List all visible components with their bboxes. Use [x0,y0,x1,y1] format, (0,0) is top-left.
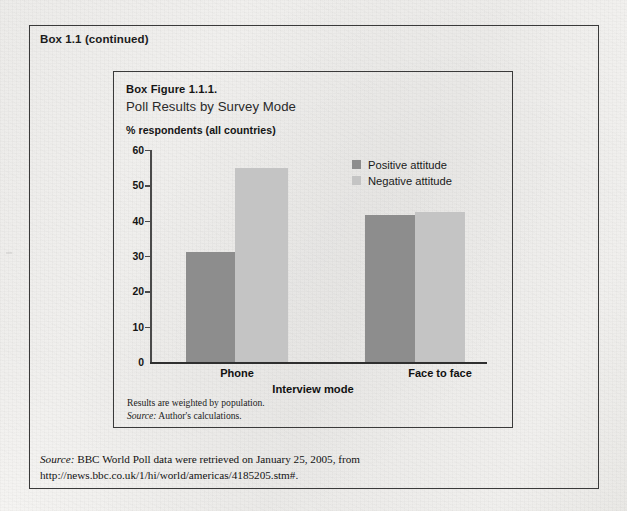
legend-swatch-negative-icon [352,176,361,185]
figure-source-label: Source: [127,410,156,421]
bar-facetoface-negative [415,212,465,362]
figure-number: Box Figure 1.1.1. [126,83,217,95]
figure-source-text: Author's calculations. [156,410,241,421]
y-tick-label: 0 [118,357,144,368]
y-axis-tick [145,185,150,186]
source-note-label: Source: [40,453,74,465]
bar-phone-negative [235,168,288,362]
y-axis-tick [145,327,150,328]
y-tick-label: 60 [118,145,144,156]
y-tick-label: 30 [118,251,144,262]
legend-label-negative: Negative attitude [368,175,452,187]
y-tick-label: 10 [118,321,144,332]
y-axis-tick [145,150,150,151]
figure-note-line: Results are weighted by population. [127,397,265,410]
source-note-text: BBC World Poll data were retrieved on Ja… [40,453,360,481]
y-tick-label: 50 [118,180,144,191]
y-axis-line [150,150,152,362]
figure-title: Poll Results by Survey Mode [126,99,296,114]
x-category-label-face-to-face: Face to face [408,367,472,379]
x-axis-title: Interview mode [272,383,353,395]
y-axis-tick [145,291,150,292]
page-edge-artifact [6,252,12,254]
bar-facetoface-positive [365,215,415,362]
bar-phone-positive [186,252,235,362]
legend-swatch-positive-icon [352,160,361,169]
x-axis-line [150,362,487,364]
y-axis-title: % respondents (all countries) [126,124,276,136]
y-tick-label: 20 [118,286,144,297]
y-axis-tick [145,221,150,222]
figure-notes: Results are weighted by population. Sour… [127,397,265,422]
box-title: Box 1.1 (continued) [40,33,149,45]
source-note: Source: BBC World Poll data were retriev… [40,452,585,484]
legend-item-negative: Negative attitude [352,173,452,188]
chart-legend: Positive attitude Negative attitude [352,157,452,189]
legend-item-positive: Positive attitude [352,157,452,172]
figure-source-line: Source: Author's calculations. [127,410,265,423]
y-axis-tick-labels: 60 50 40 30 20 10 0 [118,150,144,362]
y-tick-label: 40 [118,215,144,226]
x-category-label-phone: Phone [220,367,254,379]
y-axis-tick [145,256,150,257]
legend-label-positive: Positive attitude [368,159,447,171]
